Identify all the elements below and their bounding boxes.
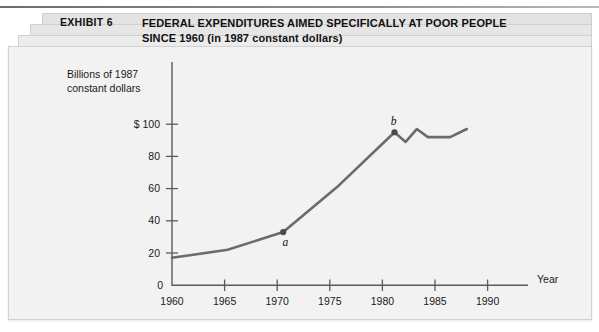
exhibit-title: FEDERAL EXPENDITURES AIMED SPECIFICALLY … — [142, 16, 507, 46]
exhibit-heading: EXHIBIT 6 FEDERAL EXPENDITURES AIMED SPE… — [60, 16, 560, 46]
exhibit-title-line-2: SINCE 1960 (in 1987 constant dollars) — [142, 31, 507, 46]
top-rule-divider — [0, 6, 599, 8]
exhibit-card — [8, 46, 592, 320]
exhibit-figure: EXHIBIT 6 FEDERAL EXPENDITURES AIMED SPE… — [0, 0, 599, 332]
exhibit-number-label: EXHIBIT 6 — [60, 16, 142, 28]
exhibit-title-line-1: FEDERAL EXPENDITURES AIMED SPECIFICALLY … — [142, 16, 507, 31]
